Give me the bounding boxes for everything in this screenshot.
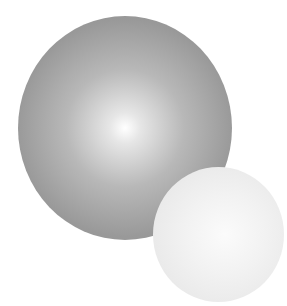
small-white-sphere [153, 167, 284, 302]
